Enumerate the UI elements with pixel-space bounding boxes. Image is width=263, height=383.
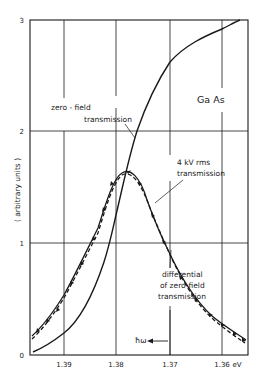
svg-text:4 kV rms: 4 kV rms bbox=[177, 158, 210, 167]
svg-text:differential: differential bbox=[162, 270, 203, 279]
y-tick-3: 3 bbox=[20, 17, 24, 25]
y-tick-0: 0 bbox=[20, 352, 24, 360]
svg-text:Ga As: Ga As bbox=[197, 94, 225, 105]
left-arrow-icon bbox=[147, 339, 153, 344]
annotation-differential: differential of zero-field transmission bbox=[158, 250, 206, 301]
differential-markers bbox=[36, 170, 246, 342]
svg-text:transmission: transmission bbox=[158, 292, 206, 301]
x-axis-ticks: 1.39 1.38 1.37 1.36 eV bbox=[56, 361, 242, 369]
x-tick-1-39: 1.39 bbox=[56, 361, 72, 369]
x-tick-1-37: 1.37 bbox=[162, 361, 178, 369]
y-tick-1: 1 bbox=[20, 240, 24, 248]
annotation-material: Ga As bbox=[197, 94, 225, 105]
svg-text:zero - field: zero - field bbox=[51, 103, 91, 112]
svg-text:transmission: transmission bbox=[177, 169, 225, 178]
x-tick-1-36: 1.36 bbox=[214, 361, 230, 369]
x-axis-unit: eV bbox=[232, 361, 241, 369]
y-tick-2: 2 bbox=[20, 128, 24, 136]
photon-energy-arrow: ħω bbox=[135, 336, 168, 345]
chart: 3 2 1 0 ( arbitrary units ) 1.39 1.38 1.… bbox=[0, 0, 263, 383]
svg-text:of zero-field: of zero-field bbox=[160, 281, 205, 290]
x-tick-1-38: 1.38 bbox=[108, 361, 124, 369]
hbar-omega-label: ħω bbox=[135, 336, 147, 345]
svg-text:transmission: transmission bbox=[84, 115, 132, 124]
horizontal-gridlines bbox=[30, 131, 248, 243]
plot-frame bbox=[30, 20, 248, 355]
y-axis-label: ( arbitrary units ) bbox=[13, 158, 22, 222]
